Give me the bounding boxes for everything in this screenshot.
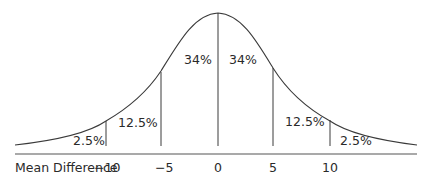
x-tick-minus-5: −5 (155, 160, 173, 175)
x-tick-10: 10 (322, 160, 338, 175)
chart-canvas: 2.5% 12.5% 34% 34% 12.5% 2.5% Mean Diffe… (0, 0, 429, 183)
region-label-4: 34% (229, 52, 257, 67)
region-label-2: 12.5% (118, 115, 158, 130)
bell-curve (15, 13, 417, 145)
region-label-1: 2.5% (73, 133, 105, 148)
region-label-3: 34% (184, 52, 212, 67)
x-tick-0: 0 (214, 160, 222, 175)
x-tick-minus-10: −10 (94, 160, 120, 175)
normal-distribution-chart: 2.5% 12.5% 34% 34% 12.5% 2.5% Mean Diffe… (0, 0, 429, 183)
region-label-6: 2.5% (340, 133, 372, 148)
region-label-5: 12.5% (285, 114, 325, 129)
x-tick-5: 5 (269, 160, 277, 175)
